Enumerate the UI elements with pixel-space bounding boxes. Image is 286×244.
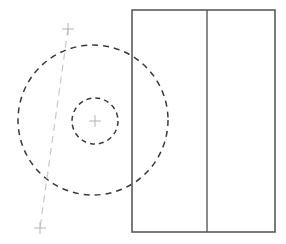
technical-drawing-canvas: Engineering drawing - circular feature w… [0,0,286,244]
